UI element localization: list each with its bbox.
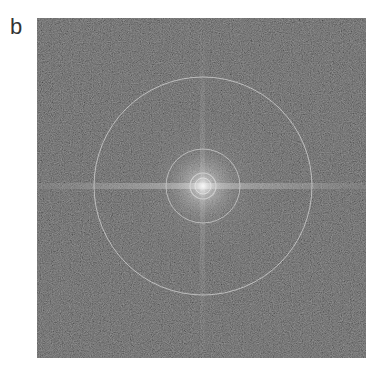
panel-label: b — [10, 14, 22, 40]
center-glow — [113, 96, 293, 276]
fft-spectrum-image — [37, 18, 366, 358]
